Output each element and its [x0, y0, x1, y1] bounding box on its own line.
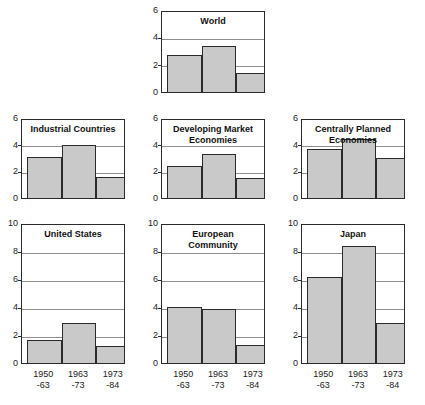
x-axis-tick-label: 1963-73 — [61, 369, 96, 391]
gridline — [162, 281, 264, 282]
bar — [202, 309, 237, 363]
x-axis-labels: 1950-631963-731973-84 — [21, 369, 125, 395]
bar — [167, 307, 202, 363]
bar — [202, 46, 237, 92]
y-axis-tick-label: 0 — [293, 359, 298, 368]
gridline — [22, 281, 124, 282]
bar — [62, 145, 97, 198]
y-axis-tick-label: 6 — [13, 114, 18, 123]
x-axis-labels: 1950-631963-731973-84 — [161, 369, 265, 395]
y-axis-tick-label: 10 — [8, 219, 18, 228]
y-axis-tick-label: 10 — [148, 219, 158, 228]
x-axis-tick-label: 1950-63 — [306, 369, 341, 391]
y-axis-tick-label: 0 — [293, 194, 298, 203]
bar — [376, 323, 405, 363]
y-axis-tick-label: 6 — [153, 114, 158, 123]
plot-area — [21, 119, 125, 199]
gridline — [22, 309, 124, 310]
y-axis-tick-label: 0 — [13, 194, 18, 203]
chart-figure: 0246World0246Industrial Countries0246Dev… — [0, 0, 425, 405]
bar — [236, 178, 265, 198]
y-axis-tick-label: 0 — [153, 359, 158, 368]
gridline — [162, 39, 264, 40]
panel-industrial-countries: 0246Industrial Countries — [21, 119, 125, 199]
gridline — [22, 253, 124, 254]
y-axis-tick-label: 0 — [153, 88, 158, 97]
plot-area — [161, 11, 265, 93]
bar — [236, 345, 265, 363]
gridline — [162, 146, 264, 147]
panel-centrally-planned-economies: 0246Centrally PlannedEconomies — [301, 119, 405, 199]
x-axis-labels: 1950-631963-731973-84 — [301, 369, 405, 395]
figure-suptitle — [0, 0, 425, 1]
y-axis-tick-label: 0 — [13, 359, 18, 368]
gridline — [162, 253, 264, 254]
bar — [96, 177, 125, 198]
bar — [307, 149, 342, 198]
x-axis-tick-label: 1963-73 — [201, 369, 236, 391]
bar — [27, 340, 62, 363]
x-axis-tick-label: 1963-73 — [341, 369, 376, 391]
x-axis-tick-label: 1973-84 — [375, 369, 410, 391]
bar — [167, 55, 202, 92]
y-axis-tick-label: 6 — [293, 114, 298, 123]
bar — [307, 277, 342, 363]
panel-european-community: 0246810EuropeanCommunity1950-631963-7319… — [161, 224, 265, 364]
plot-area — [301, 224, 405, 364]
y-axis-tick-label: 0 — [153, 194, 158, 203]
x-axis-tick-label: 1950-63 — [166, 369, 201, 391]
bar — [342, 139, 377, 198]
x-axis-tick-label: 1950-63 — [26, 369, 61, 391]
y-axis-tick-label: 10 — [288, 219, 298, 228]
x-axis-tick-label: 1973-84 — [95, 369, 130, 391]
panel-japan: 0246810Japan1950-631963-731973-84 — [301, 224, 405, 364]
bar — [62, 323, 97, 363]
bar — [27, 157, 62, 198]
plot-area — [161, 119, 265, 199]
bar — [202, 154, 237, 198]
bar — [376, 158, 405, 198]
bar — [96, 346, 125, 364]
panel-world: 0246World — [161, 11, 265, 93]
plot-area — [21, 224, 125, 364]
panel-united-states: 0246810United States1950-631963-731973-8… — [21, 224, 125, 364]
x-axis-tick-label: 1973-84 — [235, 369, 270, 391]
panel-developing-market-economies: 0246Developing MarketEconomies — [161, 119, 265, 199]
bar — [167, 166, 202, 198]
y-axis-tick-label: 6 — [153, 6, 158, 15]
plot-area — [301, 119, 405, 199]
plot-area — [161, 224, 265, 364]
bar — [236, 73, 265, 92]
bar — [342, 246, 377, 363]
